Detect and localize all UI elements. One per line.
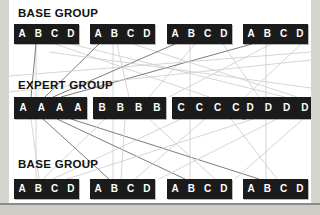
node-cell: D: [139, 29, 155, 39]
connection-line: [71, 119, 259, 179]
node-cell: D: [216, 29, 232, 39]
node-cell: A: [14, 184, 30, 194]
node-cell: A: [243, 29, 259, 39]
bottom-margin-strip: [0, 205, 320, 215]
connection-line: [135, 119, 205, 179]
connection-line: [149, 119, 215, 179]
node-cell: C: [123, 184, 139, 194]
node-cell: C: [123, 29, 139, 39]
diagram-root: BASE GROUPABCDABCDABCDABCDEXPERT GROUPAA…: [0, 0, 320, 215]
node-cell: A: [14, 29, 30, 39]
connection-line: [9, 52, 311, 76]
node-cell: C: [276, 184, 292, 194]
node-box[interactable]: ABCD: [167, 24, 232, 44]
node-cell: B: [183, 29, 199, 39]
node-cell: A: [90, 29, 106, 39]
connection-line: [121, 119, 125, 179]
connection-line: [231, 119, 277, 179]
node-cell: C: [172, 103, 190, 113]
node-cell: B: [259, 184, 275, 194]
node-cell: B: [106, 29, 122, 39]
node-cell: D: [139, 184, 155, 194]
node-box[interactable]: DDDD: [241, 97, 311, 119]
node-cell: A: [243, 184, 259, 194]
node-cell: A: [32, 103, 50, 113]
node-box[interactable]: ABCD: [90, 24, 155, 44]
group-label-row-bottom: BASE GROUP: [18, 159, 98, 171]
node-box[interactable]: ABCD: [14, 179, 79, 199]
node-cell: A: [167, 184, 183, 194]
node-cell: A: [69, 103, 87, 113]
node-box[interactable]: ABCD: [14, 24, 79, 44]
node-box[interactable]: ABCD: [167, 179, 232, 199]
node-cell: D: [63, 29, 79, 39]
diagram-panel: BASE GROUPABCDABCDABCDABCDEXPERT GROUPAA…: [9, 0, 311, 203]
node-cell: C: [47, 29, 63, 39]
connection-line: [117, 44, 129, 97]
node-box[interactable]: ABCD: [243, 179, 308, 199]
node-cell: C: [209, 103, 227, 113]
node-cell: D: [292, 29, 308, 39]
connection-line: [235, 119, 303, 179]
node-box[interactable]: CCCC: [172, 97, 245, 119]
node-cell: A: [90, 184, 106, 194]
connection-line: [133, 44, 297, 97]
node-box[interactable]: AAAA: [14, 97, 87, 119]
connection-line: [223, 44, 259, 97]
group-label-row-middle: EXPERT GROUP: [18, 80, 113, 92]
node-cell: D: [278, 103, 296, 113]
connection-line: [245, 44, 301, 97]
node-cell: B: [111, 103, 129, 113]
node-cell: D: [292, 184, 308, 194]
node-cell: C: [200, 184, 216, 194]
node-box[interactable]: ABCD: [90, 179, 155, 199]
right-margin-strip: [311, 0, 320, 203]
node-cell: B: [183, 184, 199, 194]
node-cell: D: [241, 103, 259, 113]
connection-line: [169, 44, 271, 97]
node-box[interactable]: BBBB: [93, 97, 166, 119]
node-cell: B: [93, 103, 111, 113]
node-cell: B: [148, 103, 166, 113]
node-cell: A: [167, 29, 183, 39]
node-cell: D: [216, 184, 232, 194]
connection-line: [149, 44, 195, 97]
node-cell: B: [130, 103, 148, 113]
left-margin-strip: [0, 0, 9, 203]
node-cell: B: [106, 184, 122, 194]
node-cell: D: [259, 103, 277, 113]
connection-line: [159, 119, 277, 179]
node-cell: D: [296, 103, 311, 113]
group-label-row-top: BASE GROUP: [18, 8, 98, 20]
node-cell: B: [30, 29, 46, 39]
node-box[interactable]: ABCD: [243, 24, 308, 44]
node-cell: A: [51, 103, 69, 113]
node-cell: C: [276, 29, 292, 39]
node-cell: B: [30, 184, 46, 194]
node-cell: A: [14, 103, 32, 113]
node-cell: D: [63, 184, 79, 194]
node-cell: C: [47, 184, 63, 194]
node-cell: C: [190, 103, 208, 113]
node-cell: C: [200, 29, 216, 39]
node-cell: B: [259, 29, 275, 39]
